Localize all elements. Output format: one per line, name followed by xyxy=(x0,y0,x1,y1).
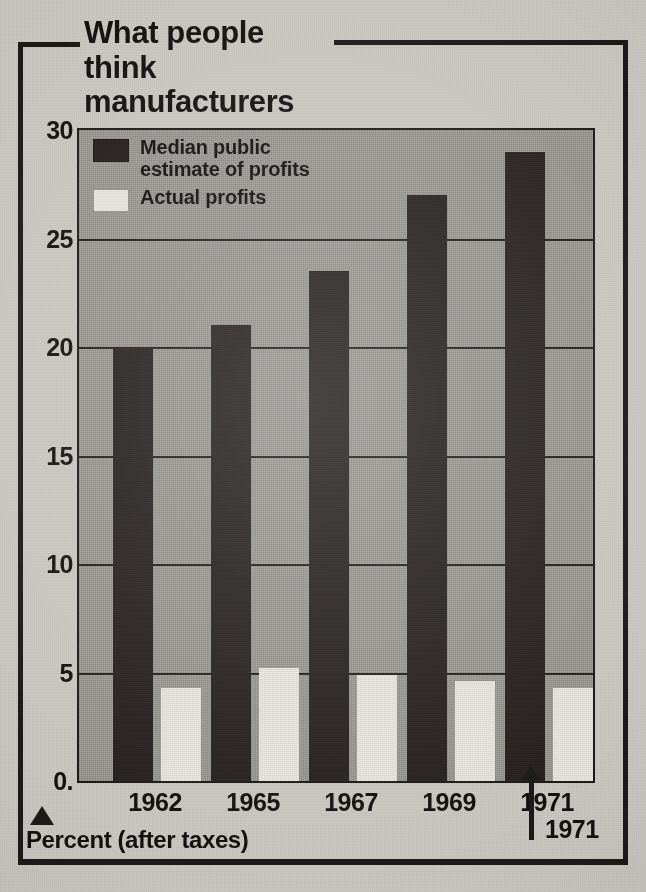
y-axis-tick-30: 30 xyxy=(11,116,73,145)
arrow-up-icon xyxy=(529,778,534,840)
legend-label-median-estimate: Median public estimate of profits xyxy=(140,136,310,181)
bar-texture xyxy=(211,325,251,781)
y-axis-tick-5: 5 xyxy=(11,658,73,687)
x-axis-tick-1965: 1965 xyxy=(226,788,280,817)
y-axis-tick-15: 15 xyxy=(11,441,73,470)
legend-label-actual-profits-line-1: Actual profits xyxy=(140,186,266,208)
x-axis-tick-1969: 1969 xyxy=(422,788,476,817)
bar-texture xyxy=(455,681,495,781)
frame-border-bottom xyxy=(18,859,628,865)
legend: Median public estimate of profits Actual… xyxy=(93,136,393,217)
triangle-up-icon xyxy=(30,806,54,825)
y-axis-tick-20: 20 xyxy=(11,333,73,362)
frame-border-top-right xyxy=(334,40,628,45)
y-axis-tick-0: 0. xyxy=(11,767,73,796)
bar-texture xyxy=(505,152,545,781)
bar-texture xyxy=(553,688,593,781)
bar-texture xyxy=(259,668,299,781)
legend-swatch-actual-profits xyxy=(93,189,129,212)
legend-label-median-estimate-line-2: estimate of profits xyxy=(140,158,310,180)
bar-1967-actual-profits xyxy=(357,675,397,781)
bar-texture xyxy=(113,347,153,781)
axis-unit-label: Percent (after taxes) xyxy=(26,826,248,854)
bar-1969-actual-profits xyxy=(455,681,495,781)
bar-texture xyxy=(357,675,397,781)
bar-texture xyxy=(309,271,349,781)
legend-label-median-estimate-line-1: Median public xyxy=(140,136,310,158)
bar-1962-median-public-estimate-of-profits xyxy=(113,347,153,781)
frame-border-top-left xyxy=(18,42,80,47)
bar-texture xyxy=(161,688,201,781)
y-axis-tick-10: 10 xyxy=(11,550,73,579)
bar-1969-median-public-estimate-of-profits xyxy=(407,195,447,781)
bar-texture xyxy=(407,195,447,781)
x-axis: 19621965196719691971 xyxy=(77,788,595,822)
chart-title-line-1: What people think xyxy=(84,16,344,85)
bar-1965-median-public-estimate-of-profits xyxy=(211,325,251,781)
bar-1965-actual-profits xyxy=(259,668,299,781)
legend-item-median-estimate: Median public estimate of profits xyxy=(93,136,393,181)
legend-label-actual-profits: Actual profits xyxy=(140,186,266,208)
frame-border-right xyxy=(623,40,628,864)
plot-area: Median public estimate of profits Actual… xyxy=(77,128,595,783)
legend-swatch-median-estimate xyxy=(93,139,129,162)
legend-item-actual-profits: Actual profits xyxy=(93,186,393,212)
y-axis: 0.51015202530 xyxy=(0,128,73,783)
x-axis-tick-1962: 1962 xyxy=(128,788,182,817)
bar-1971-actual-profits xyxy=(553,688,593,781)
newspaper-chart-page: What people think manufacturers earn 0.5… xyxy=(0,0,646,892)
x-axis-tick-1967: 1967 xyxy=(324,788,378,817)
bar-1967-median-public-estimate-of-profits xyxy=(309,271,349,781)
callout-year-label: 1971 xyxy=(545,815,599,844)
bar-1971-median-public-estimate-of-profits xyxy=(505,152,545,781)
bar-1962-actual-profits xyxy=(161,688,201,781)
y-axis-tick-25: 25 xyxy=(11,224,73,253)
